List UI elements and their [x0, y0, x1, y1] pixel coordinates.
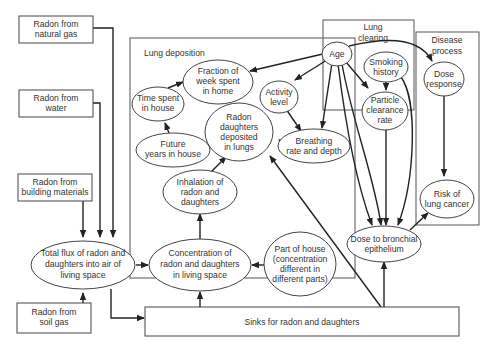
svg-text:Inhalation of: Inhalation of	[177, 177, 224, 187]
svg-text:Radon from: Radon from	[32, 307, 77, 317]
group-label-disease-process-1: Disease	[431, 35, 462, 45]
node-age[interactable]: Age	[322, 42, 352, 66]
svg-text:Radon: Radon	[226, 112, 252, 122]
svg-text:different parts): different parts)	[272, 274, 327, 284]
svg-text:radon and daughters: radon and daughters	[160, 259, 239, 269]
node-smoking-history[interactable]: Smoking history	[364, 52, 408, 82]
svg-text:deposited: deposited	[220, 132, 257, 142]
node-breathing-rate[interactable]: Breathing rate and depth	[278, 129, 350, 163]
node-time-spent[interactable]: Time spent in house	[132, 87, 184, 121]
svg-text:Breathing: Breathing	[296, 136, 333, 146]
svg-text:level: level	[270, 97, 288, 107]
node-radon-building-materials[interactable]: Radon from building materials	[18, 174, 92, 201]
node-fraction-of-week[interactable]: Fraction of week spent in home	[183, 60, 253, 104]
svg-text:Dose: Dose	[434, 69, 454, 79]
node-part-of-house[interactable]: Part of house (concentration different i…	[264, 232, 336, 296]
svg-text:Dose to bronchial: Dose to bronchial	[351, 234, 418, 244]
svg-text:different in: different in	[280, 264, 320, 274]
edge-water-to-flux	[93, 103, 100, 237]
radon-risk-diagram: Lung deposition Lung clearing Disease pr…	[0, 0, 486, 351]
group-label-lung-deposition: Lung deposition	[144, 48, 205, 58]
edge-time-to-fraction	[168, 82, 183, 88]
node-dose-bronchial-epithelium[interactable]: Dose to bronchial epithelium	[347, 226, 421, 262]
svg-text:Smoking: Smoking	[369, 57, 403, 67]
svg-text:Future: Future	[161, 139, 186, 149]
edge-inhalation-to-deposited	[211, 157, 226, 172]
node-activity-level[interactable]: Activity level	[260, 81, 298, 113]
svg-text:epithelium: epithelium	[364, 244, 403, 254]
svg-text:week spent: week spent	[195, 76, 240, 86]
node-dose-response[interactable]: Dose response	[424, 62, 464, 96]
svg-text:daughters into air of: daughters into air of	[45, 259, 122, 269]
svg-text:daughters: daughters	[181, 197, 219, 207]
svg-text:building materials: building materials	[22, 187, 89, 197]
node-radon-water[interactable]: Radon from water	[19, 90, 93, 117]
svg-text:Risk of: Risk of	[434, 189, 461, 199]
node-future-years[interactable]: Future years in house	[136, 133, 210, 167]
node-sinks[interactable]: Sinks for radon and daughters	[145, 307, 459, 336]
svg-text:Fraction of: Fraction of	[198, 66, 239, 76]
svg-text:response: response	[426, 79, 462, 89]
svg-text:in home: in home	[203, 86, 234, 96]
svg-text:Total flux of radon and: Total flux of radon and	[41, 248, 126, 258]
svg-text:Radon from: Radon from	[33, 177, 78, 187]
node-inhalation[interactable]: Inhalation of radon and daughters	[163, 170, 237, 214]
svg-text:in living space: in living space	[173, 270, 227, 280]
svg-text:in lungs: in lungs	[224, 142, 254, 152]
edge-age-to-fraction	[250, 53, 327, 71]
svg-text:in house: in house	[142, 103, 175, 113]
edge-future-to-time	[165, 123, 169, 133]
svg-text:Radon from: Radon from	[34, 19, 79, 29]
edge-activity-to-breathing	[286, 109, 301, 131]
svg-text:(concentration: (concentration	[273, 254, 328, 264]
group-label-lung-clearing-1: Lung	[363, 22, 382, 32]
svg-text:years in house: years in house	[145, 149, 201, 159]
group-label-disease-process-2: process	[432, 46, 462, 56]
node-concentration[interactable]: Concentration of radon and daughters in …	[149, 239, 251, 291]
edge-dose-bronchial-to-risk	[410, 213, 428, 230]
svg-text:rate: rate	[378, 115, 393, 125]
svg-text:Sinks for radon and daughters: Sinks for radon and daughters	[244, 317, 359, 327]
node-total-flux[interactable]: Total flux of radon and daughters into a…	[31, 241, 135, 289]
node-radon-natural-gas[interactable]: Radon from natural gas	[19, 16, 93, 43]
node-radon-soil-gas[interactable]: Radon from soil gas	[17, 303, 91, 333]
svg-text:history: history	[373, 67, 399, 77]
svg-text:radon and: radon and	[181, 187, 220, 197]
svg-text:daughters: daughters	[220, 122, 258, 132]
svg-text:Time spent: Time spent	[137, 93, 180, 103]
svg-text:water: water	[44, 103, 66, 113]
svg-text:clearance: clearance	[366, 105, 403, 115]
svg-text:Concentration of: Concentration of	[168, 248, 232, 258]
svg-text:rate and depth: rate and depth	[286, 146, 342, 156]
svg-text:Radon from: Radon from	[34, 93, 79, 103]
edge-natural-gas-to-flux	[93, 28, 113, 237]
svg-text:soil gas: soil gas	[39, 317, 68, 327]
node-risk-lung-cancer[interactable]: Risk of lung cancer	[420, 180, 474, 218]
svg-text:Particle: Particle	[371, 95, 400, 105]
svg-text:living space: living space	[61, 270, 106, 280]
svg-text:Activity: Activity	[265, 87, 293, 97]
node-radon-deposited[interactable]: Radon daughters deposited in lungs	[205, 103, 273, 161]
svg-text:Age: Age	[329, 49, 345, 59]
svg-text:natural gas: natural gas	[35, 29, 78, 39]
svg-text:lung cancer: lung cancer	[425, 199, 470, 209]
edge-flux-to-sinks	[111, 289, 144, 318]
svg-text:Part of house: Part of house	[274, 244, 325, 254]
node-particle-clearance[interactable]: Particle clearance rate	[362, 92, 408, 130]
